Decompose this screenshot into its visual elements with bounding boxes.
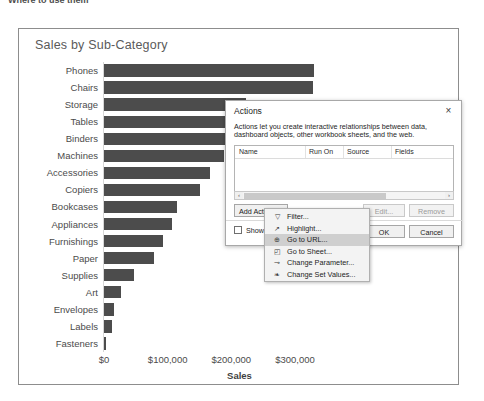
x-axis-tick-label: $0 (99, 354, 110, 365)
bar[interactable] (104, 150, 224, 162)
menu-item-icon: ↗ (272, 223, 282, 235)
bar-row: Chairs (19, 79, 460, 96)
page-header-label: Where to use them (8, 0, 158, 5)
menu-item-icon: ❧ (272, 269, 282, 281)
category-label: Fasteners (19, 335, 98, 352)
menu-item-icon: ▽ (272, 211, 282, 223)
scroll-left-arrow-icon[interactable]: ‹ (235, 192, 243, 199)
category-label: Binders (19, 130, 98, 147)
category-label: Storage (19, 96, 98, 113)
category-label: Supplies (19, 267, 98, 284)
page-header-text-fragment: Where to use them (8, 0, 158, 7)
bar[interactable] (104, 337, 106, 349)
scrollbar-thumb[interactable] (244, 193, 386, 199)
category-label: Labels (19, 318, 98, 335)
bar[interactable] (104, 64, 314, 76)
category-label: Copiers (19, 181, 98, 198)
menu-item-go-to-sheet[interactable]: ◰Go to Sheet... (265, 246, 369, 258)
menu-item-label: Highlight... (287, 224, 321, 233)
bar[interactable] (104, 167, 210, 179)
table-column-header[interactable]: Fields (395, 148, 414, 155)
x-axis-tick-label: $200,000 (212, 354, 252, 365)
menu-item-label: Filter... (287, 212, 309, 221)
dialog-title: Actions (234, 106, 262, 116)
bar[interactable] (104, 184, 200, 196)
menu-item-label: Change Parameter... (287, 258, 354, 267)
category-label: Envelopes (19, 301, 98, 318)
bar[interactable] (104, 235, 163, 247)
category-label: Machines (19, 147, 98, 164)
table-column-header[interactable]: Run On (309, 148, 333, 155)
bar[interactable] (104, 133, 234, 145)
menu-item-icon: ◰ (272, 246, 282, 258)
bar[interactable] (104, 303, 114, 315)
dialog-description: Actions let you create interactive relat… (234, 123, 448, 140)
bar-row: Envelopes (19, 301, 460, 318)
chart-title: Sales by Sub-Category (35, 38, 168, 52)
bar-row: Art (19, 284, 460, 301)
bar-row: Phones (19, 62, 460, 79)
menu-item-icon: ⊸ (272, 257, 282, 269)
table-column-header[interactable]: Source (347, 148, 369, 155)
column-separator[interactable] (391, 146, 392, 158)
show-action-checkbox[interactable] (234, 226, 242, 234)
category-label: Chairs (19, 79, 98, 96)
bar[interactable] (104, 218, 172, 230)
bar[interactable] (104, 286, 121, 298)
bar-row: Paper (19, 250, 460, 267)
x-axis-title: Sales (19, 370, 460, 381)
category-label: Appliances (19, 216, 98, 233)
menu-item-change-parameter[interactable]: ⊸Change Parameter... (265, 257, 369, 269)
x-axis-tick-label: $300,000 (275, 354, 315, 365)
category-label: Furnishings (19, 233, 98, 250)
menu-item-label: Go to URL... (287, 235, 328, 244)
bar[interactable] (104, 269, 134, 281)
menu-item-highlight[interactable]: ↗Highlight... (265, 223, 369, 235)
category-label: Bookcases (19, 198, 98, 215)
column-separator[interactable] (305, 146, 306, 158)
bar[interactable] (104, 252, 154, 264)
table-column-header[interactable]: Name (239, 148, 258, 155)
category-label: Accessories (19, 164, 98, 181)
column-separator[interactable] (343, 146, 344, 158)
close-icon[interactable]: × (442, 104, 455, 117)
scroll-right-arrow-icon[interactable]: › (445, 192, 453, 199)
menu-item-label: Go to Sheet... (287, 247, 332, 256)
x-axis-tick-label: $100,000 (148, 354, 188, 365)
category-label: Art (19, 284, 98, 301)
x-axis-ticks: $0$100,000$200,000$300,000 (19, 354, 460, 370)
bar[interactable] (104, 81, 313, 93)
remove-button[interactable]: Remove (409, 204, 454, 217)
bar-row: Supplies (19, 267, 460, 284)
category-label: Phones (19, 62, 98, 79)
bar[interactable] (104, 201, 177, 213)
menu-item-filter[interactable]: ▽Filter... (265, 211, 369, 223)
bar-row: Fasteners (19, 335, 460, 352)
menu-item-icon: ⊕ (272, 234, 282, 246)
category-label: Paper (19, 250, 98, 267)
cancel-button[interactable]: Cancel (409, 225, 454, 238)
add-action-dropdown-menu: ▽Filter...↗Highlight...⊕Go to URL...◰Go … (264, 208, 370, 282)
menu-item-label: Change Set Values... (287, 270, 355, 279)
horizontal-scrollbar[interactable]: ‹ › (234, 191, 454, 200)
bar-row: Labels (19, 318, 460, 335)
bar[interactable] (104, 320, 112, 332)
category-label: Tables (19, 113, 98, 130)
actions-table-header: NameRun OnSourceFields (235, 146, 453, 159)
menu-item-go-to-url[interactable]: ⊕Go to URL... (265, 234, 369, 246)
menu-item-change-set-values[interactable]: ❧Change Set Values... (265, 269, 369, 281)
bar[interactable] (104, 116, 236, 128)
dialog-titlebar: Actions × (226, 101, 461, 121)
